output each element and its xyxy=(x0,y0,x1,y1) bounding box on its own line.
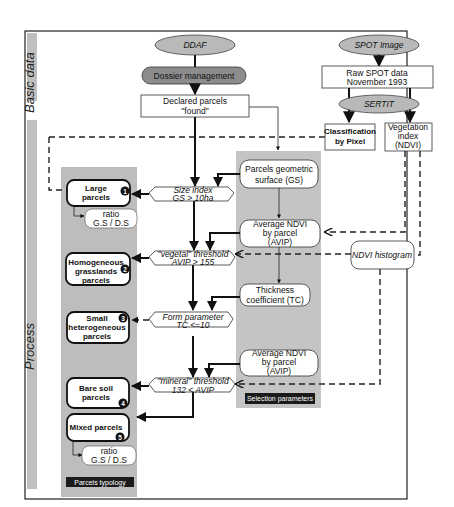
tc-line1: Thickness xyxy=(256,285,294,295)
svg-text:TC <=10: TC <=10 xyxy=(176,320,209,330)
classif-line2: by Pixel xyxy=(335,137,365,146)
spot-image-label: SPOT Image xyxy=(354,40,403,50)
classif-line1: Classification xyxy=(324,127,376,136)
gs-line2: surface (GS) xyxy=(255,175,303,185)
test-mineral-threshold: "mineral" threshold 132 < AVIP xyxy=(149,376,235,395)
selection-parameters-label: Selection parameters xyxy=(247,395,314,403)
typology-small-heterogeneous: Small heterogeneous parcels 3 xyxy=(67,312,129,343)
test-size-index: Size index GS > 10ha xyxy=(149,185,234,203)
svg-text:grasslands: grasslands xyxy=(75,267,118,276)
svg-text:4: 4 xyxy=(121,400,125,407)
svg-text:Homogeneous: Homogeneous xyxy=(68,258,124,267)
svg-text:Small: Small xyxy=(86,314,107,323)
declared-line1: Declared parcels xyxy=(163,96,227,106)
svg-text:heterogeneous: heterogeneous xyxy=(68,323,126,332)
ratio-box-1: ratio G.S / D.S xyxy=(85,209,137,228)
svg-text:3: 3 xyxy=(121,315,125,322)
declared-line2: "found" xyxy=(181,106,208,116)
veg-line3: (NDVI) xyxy=(395,140,421,150)
avip1-line3: (AVIP) xyxy=(268,237,293,247)
svg-text:132 < AVIP: 132 < AVIP xyxy=(172,385,215,395)
gs-line1: Parcels geometric xyxy=(245,164,314,174)
raw-line2: November 1993 xyxy=(347,77,408,87)
ratio-box-2: ratio G.S / D.S xyxy=(82,446,136,465)
tc-line2: coefficient (TC) xyxy=(246,295,304,305)
avip2-line3: (AVIP) xyxy=(267,366,292,376)
svg-text:GS > 10ha: GS > 10ha xyxy=(173,193,214,203)
section-process: Process xyxy=(22,323,37,370)
typology-homogeneous-grasslands: Homogeneous grasslands parcels 2 xyxy=(66,253,130,285)
process-bar xyxy=(27,120,37,489)
svg-text:G.S / D.S: G.S / D.S xyxy=(91,455,127,465)
svg-text:Large: Large xyxy=(85,184,107,193)
svg-text:AVIP > 155: AVIP > 155 xyxy=(171,257,215,267)
typology-large-parcels: Large parcels 1 xyxy=(67,180,130,206)
section-basic-data: Basic data xyxy=(22,52,37,113)
svg-text:parcels: parcels xyxy=(83,332,112,341)
svg-text:G.S / D.S: G.S / D.S xyxy=(93,218,129,228)
svg-text:Bare soil: Bare soil xyxy=(79,384,113,393)
test-vegetal-threshold: "vegetal" threshold AVIP > 155 xyxy=(149,249,235,267)
svg-text:2: 2 xyxy=(123,266,127,273)
svg-text:parcels: parcels xyxy=(82,193,111,202)
typology-mixed-parcels: Mixed parcels 5 xyxy=(67,414,129,442)
flowchart-canvas: Basic data Process DDAF Dossier manageme… xyxy=(0,0,454,507)
sertit-label: SERTIT xyxy=(364,99,395,109)
svg-text:1: 1 xyxy=(123,188,127,195)
test-form-parameter: Form parameter TC <=10 xyxy=(149,312,233,330)
svg-text:5: 5 xyxy=(118,434,122,441)
dossier-label: Dossier management xyxy=(154,71,235,81)
ndvi-histogram-label: NDVI histogram xyxy=(352,250,412,260)
parcels-typology-label: Parcels typology xyxy=(74,479,126,487)
typology-bare-soil: Bare soil parcels 4 xyxy=(67,378,129,408)
svg-text:Mixed parcels: Mixed parcels xyxy=(70,423,123,432)
svg-text:parcels: parcels xyxy=(82,276,111,285)
svg-text:parcels: parcels xyxy=(82,393,111,402)
ddaf-label: DDAF xyxy=(183,40,207,50)
